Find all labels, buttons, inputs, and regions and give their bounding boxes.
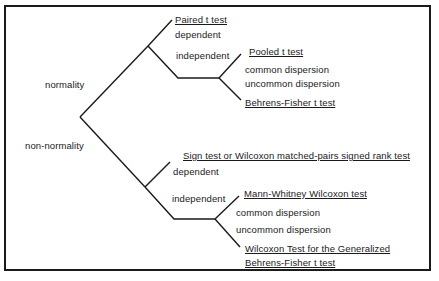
- label-non-normality-common: common dispersion: [236, 207, 320, 218]
- label-normality: normality: [45, 79, 84, 90]
- edge-non-normality-dependent: [145, 162, 170, 187]
- test-behrens-fisher: Behrens-Fisher t test: [245, 97, 335, 108]
- test-mann-whitney: Mann-Whitney Wilcoxon test: [244, 188, 367, 199]
- test-pooled-t: Pooled t test: [249, 46, 303, 57]
- edge-normality-dependent: [148, 20, 172, 46]
- test-sign-wilcoxon: Sign test or Wilcoxon matched-pairs sign…: [183, 150, 410, 161]
- label-normality-uncommon: uncommon dispersion: [245, 78, 340, 89]
- label-non-normality-dependent: dependent: [173, 166, 219, 177]
- edge-normality: [80, 46, 148, 117]
- test-wilcoxon-generalized-line2: Behrens-Fisher t test: [245, 257, 335, 268]
- label-non-normality-independent: independent: [172, 193, 225, 204]
- label-non-normality: non-normality: [25, 140, 84, 151]
- label-normality-independent: independent: [176, 50, 229, 61]
- test-wilcoxon-generalized-line1: Wilcoxon Test for the Generalized: [245, 243, 390, 254]
- edge-non-normality: [80, 117, 145, 187]
- label-normality-common: common dispersion: [245, 64, 329, 75]
- label-normality-dependent: dependent: [175, 29, 221, 40]
- test-paired-t: Paired t test: [175, 14, 227, 25]
- edge-normality-uncommon: [219, 78, 241, 100]
- label-non-normality-uncommon: uncommon dispersion: [236, 224, 331, 235]
